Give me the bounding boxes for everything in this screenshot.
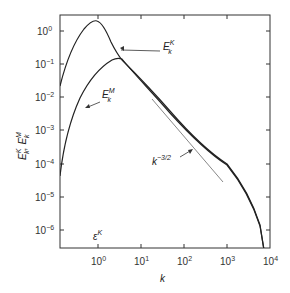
x-tick-label: 100 <box>91 255 106 267</box>
annotation-ek-arrow <box>121 50 160 51</box>
y-tick-label: 10−4 <box>35 158 54 170</box>
x-tick-label: 102 <box>177 255 192 267</box>
y-tick-label: 10−2 <box>35 91 54 103</box>
y-ticks <box>60 31 270 230</box>
spectrum-chart: 100 101 102 103 104 100 10−1 10−2 10−3 1… <box>0 0 290 293</box>
y-tick-labels: 100 10−1 10−2 10−3 10−4 10−5 10−6 <box>35 25 54 236</box>
y-tick-label: 100 <box>37 25 52 37</box>
svg-text:EKk, EMk: EKk, EMk <box>15 132 30 160</box>
annotation-ek: EKk <box>163 39 175 55</box>
annotation-slope: k−3/2 <box>152 154 171 167</box>
ek-kinetic-curve <box>60 21 264 250</box>
annotation-slope-arrow <box>180 151 190 157</box>
x-tick-label: 104 <box>263 255 278 267</box>
annotation-em-arrow <box>88 102 100 107</box>
arrow-head-icon <box>85 104 90 108</box>
x-tick-label: 101 <box>134 255 149 267</box>
x-tick-labels: 100 101 102 103 104 <box>91 255 278 267</box>
reference-slope-line <box>152 99 223 182</box>
y-axis-title: EKk, EMk <box>15 132 30 160</box>
annotation-epsilon: εK <box>93 229 102 242</box>
y-tick-label: 10−6 <box>35 224 54 236</box>
y-tick-label: 10−1 <box>35 58 54 70</box>
arrow-head-icon <box>188 149 193 154</box>
x-axis-title: k <box>160 273 166 284</box>
y-tick-label: 10−5 <box>35 191 54 203</box>
x-tick-label: 103 <box>220 255 235 267</box>
y-tick-label: 10−3 <box>35 124 54 136</box>
annotation-em: EMk <box>102 87 115 103</box>
